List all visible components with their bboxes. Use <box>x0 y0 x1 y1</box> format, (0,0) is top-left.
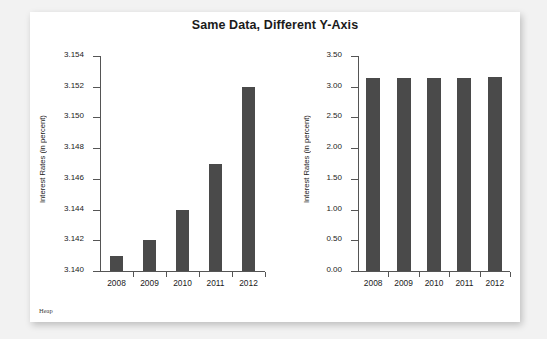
x-tick-left <box>265 272 266 277</box>
bar-2011-right <box>457 78 471 271</box>
x-tick-label-2010-left: 2010 <box>173 278 192 288</box>
x-tick-left <box>232 272 233 277</box>
bar-2011-left <box>209 164 223 272</box>
x-tick-right <box>388 272 389 277</box>
x-axis-line-left <box>100 271 265 272</box>
chart-panel-right: Interest Rates (in percent) 0.000.501.00… <box>280 40 520 302</box>
y-tick-label-right: 3.50 <box>326 50 342 59</box>
x-tick-label-2012-right: 2012 <box>485 278 504 288</box>
y-tick-right: 3.50 <box>351 56 358 57</box>
y-tick-label-right: 2.50 <box>326 111 342 120</box>
y-tick-right: 3.00 <box>351 87 358 88</box>
bar-2008-left <box>110 256 124 271</box>
x-tick-label-2012-left: 2012 <box>239 278 258 288</box>
y-tick-label-left: 3.140 <box>64 265 84 274</box>
page-title: Same Data, Different Y-Axis <box>30 18 520 32</box>
y-axis-line-left <box>100 56 101 272</box>
x-tick-right <box>480 272 481 277</box>
chart-panel-left: Interest Rates (in percent) 3.1403.1423.… <box>36 40 280 302</box>
credit-label: Heap <box>39 307 53 314</box>
y-tick-left: 3.144 <box>93 210 100 211</box>
y-tick-left: 3.142 <box>93 240 100 241</box>
x-tick-label-2011-left: 2011 <box>206 278 224 288</box>
x-tick-left <box>199 272 200 277</box>
x-tick-label-2008-right: 2008 <box>364 278 383 288</box>
y-tick-label-left: 3.148 <box>64 142 84 151</box>
x-axis-line-right <box>358 271 510 272</box>
bar-2012-left <box>242 87 256 271</box>
y-tick-label-left: 3.154 <box>64 50 84 59</box>
x-tick-label-2010-right: 2010 <box>425 278 444 288</box>
y-tick-left: 3.150 <box>93 117 100 118</box>
bar-2010-right <box>427 78 441 271</box>
x-tick-left <box>133 272 134 277</box>
x-tick-left <box>166 272 167 277</box>
y-tick-label-right: 3.00 <box>326 81 342 90</box>
y-tick-right: 1.00 <box>351 210 358 211</box>
y-tick-label-left: 3.150 <box>64 111 84 120</box>
y-tick-left: 3.140 <box>93 271 100 272</box>
y-axis-title-left: Interest Rates (in percent) <box>38 68 52 250</box>
x-tick-right <box>419 272 420 277</box>
y-tick-label-left: 3.142 <box>64 234 84 243</box>
y-tick-left: 3.154 <box>93 56 100 57</box>
y-axis-title-right: Interest Rates (in percent) <box>302 68 316 250</box>
y-tick-label-right: 1.00 <box>326 204 342 213</box>
y-tick-right: 2.00 <box>351 148 358 149</box>
x-tick-label-2011-right: 2011 <box>455 278 473 288</box>
y-tick-label-left: 3.146 <box>64 173 84 182</box>
x-tick-label-2008-left: 2008 <box>107 278 126 288</box>
y-axis-line-right <box>358 56 359 272</box>
x-tick-right <box>449 272 450 277</box>
y-tick-left: 3.146 <box>93 179 100 180</box>
y-tick-right: 1.50 <box>351 179 358 180</box>
bar-2008-right <box>366 78 380 271</box>
y-tick-left: 3.152 <box>93 87 100 88</box>
y-tick-label-right: 1.50 <box>326 173 342 182</box>
y-tick-left: 3.148 <box>93 148 100 149</box>
y-tick-right: 0.00 <box>351 271 358 272</box>
y-tick-label-right: 0.00 <box>326 265 342 274</box>
bar-2012-right <box>488 77 502 271</box>
y-tick-label-left: 3.144 <box>64 204 84 213</box>
plot-area-right: 0.000.501.001.502.002.503.003.5020082009… <box>358 56 510 272</box>
x-tick-label-2009-left: 2009 <box>140 278 159 288</box>
y-tick-right: 2.50 <box>351 117 358 118</box>
y-tick-label-right: 2.00 <box>326 142 342 151</box>
y-tick-label-right: 0.50 <box>326 234 342 243</box>
y-tick-right: 0.50 <box>351 240 358 241</box>
plot-area-left: 3.1403.1423.1443.1463.1483.1503.1523.154… <box>100 56 265 272</box>
bar-2009-left <box>143 240 157 271</box>
y-tick-label-left: 3.152 <box>64 81 84 90</box>
bar-2009-right <box>397 78 411 271</box>
x-tick-label-2009-right: 2009 <box>394 278 413 288</box>
figure-card: Same Data, Different Y-Axis Interest Rat… <box>30 12 520 322</box>
x-tick-right <box>510 272 511 277</box>
bar-2010-left <box>176 210 190 271</box>
